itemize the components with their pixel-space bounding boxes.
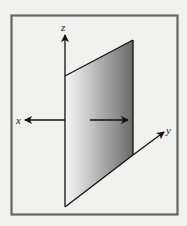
x-axis-label: x (15, 114, 21, 126)
z-axis-label: z (60, 21, 66, 33)
y-axis-label: y (165, 124, 171, 136)
diagram: z x y (0, 0, 187, 226)
